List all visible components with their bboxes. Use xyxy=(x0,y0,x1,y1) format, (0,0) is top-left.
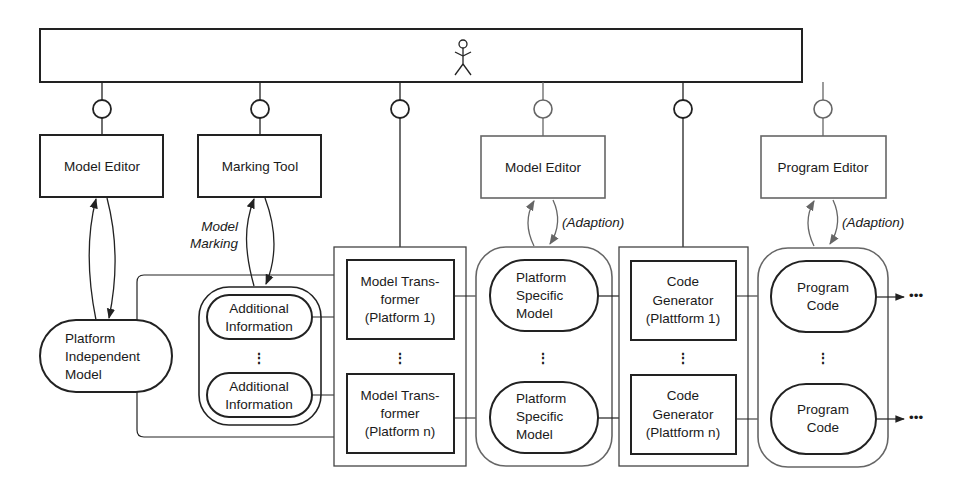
code-n-line-2: Code xyxy=(807,420,839,435)
model-editor-box: Model Editor xyxy=(40,135,163,197)
platform-independent-model: Platform Independent Model xyxy=(40,320,172,392)
generator-n-line-2: Generator xyxy=(653,407,714,422)
adaption-label-1: (Adaption) xyxy=(562,215,624,230)
marking-tool-box: Marking Tool xyxy=(198,135,321,197)
continuation-dots: ••• xyxy=(909,288,923,303)
psm-n-line-3: Model xyxy=(516,427,553,442)
model-editor-adaption-box: Model Editor xyxy=(481,136,605,198)
addinfo-1-line-1: Additional xyxy=(229,301,288,316)
edit-pim-arrows xyxy=(89,198,115,320)
addinfo-1-line-2: Information xyxy=(225,319,293,334)
vertical-ellipsis: ⋮ xyxy=(676,351,690,366)
transformer-1-line-2: former xyxy=(380,292,420,307)
code-n-line-1: Program xyxy=(797,402,849,417)
adaption-arrows-code xyxy=(808,200,838,246)
psm-1-line-3: Model xyxy=(516,306,553,321)
generator-n-line-3: (Plattform n) xyxy=(646,425,720,440)
code-1-line-1: Program xyxy=(797,280,849,295)
psm-n-line-1: Platform xyxy=(516,391,566,406)
psm-1-line-1: Platform xyxy=(516,270,566,285)
psm-n-line-2: Specific xyxy=(516,409,564,424)
adaption-arrows-psm xyxy=(528,200,558,246)
vertical-ellipsis: ⋮ xyxy=(393,351,407,366)
user-interaction-bar xyxy=(40,29,802,82)
additional-information-group: Additional Information ⋮ Additional Info… xyxy=(199,287,321,425)
generator-1-line-3: (Plattform 1) xyxy=(646,311,720,326)
marking-tool-label: Marking Tool xyxy=(222,159,298,174)
transformer-n-line-3: (Platform n) xyxy=(365,424,436,439)
model-transformer-group: Model Trans- former (Platform 1) ⋮ Model… xyxy=(334,247,466,466)
model-marking-label-1: Model xyxy=(201,219,239,234)
vertical-ellipsis: ⋮ xyxy=(252,351,266,366)
vertical-ellipsis: ⋮ xyxy=(816,351,830,366)
addinfo-n-line-2: Information xyxy=(225,397,293,412)
psm-1-line-2: Specific xyxy=(516,288,564,303)
program-code-group: Program Code ⋮ Program Code xyxy=(758,248,888,467)
model-editor-2-label: Model Editor xyxy=(505,160,581,175)
program-editor-box: Program Editor xyxy=(761,136,886,198)
continuation-dots: ••• xyxy=(909,410,923,425)
model-marking-arrows xyxy=(247,198,274,286)
additional-information-n: Additional Information xyxy=(207,373,312,417)
generator-n-line-1: Code xyxy=(667,388,699,403)
model-editor-label: Model Editor xyxy=(64,159,140,174)
program-editor-label: Program Editor xyxy=(778,160,869,175)
pim-line-1: Platform xyxy=(65,331,115,346)
additional-information-1: Additional Information xyxy=(207,295,312,339)
code-generator-group: Code Generator (Plattform 1) ⋮ Code Gene… xyxy=(619,247,748,466)
platform-specific-model-group: Platform Specific Model ⋮ Platform Speci… xyxy=(476,247,612,466)
pim-line-3: Model xyxy=(65,367,102,382)
transformer-1-line-1: Model Trans- xyxy=(361,274,440,289)
code-1-line-2: Code xyxy=(807,298,839,313)
adaption-label-2: (Adaption) xyxy=(842,215,904,230)
transformer-n-line-2: former xyxy=(380,406,420,421)
transformer-1-line-3: (Platform 1) xyxy=(365,310,436,325)
generator-1-line-2: Generator xyxy=(653,293,714,308)
addinfo-n-line-1: Additional xyxy=(229,379,288,394)
transformer-n-line-1: Model Trans- xyxy=(361,388,440,403)
model-marking-label-2: Marking xyxy=(190,236,239,251)
generator-1-line-1: Code xyxy=(667,274,699,289)
vertical-ellipsis: ⋮ xyxy=(536,351,550,366)
pim-line-2: Independent xyxy=(65,349,140,364)
